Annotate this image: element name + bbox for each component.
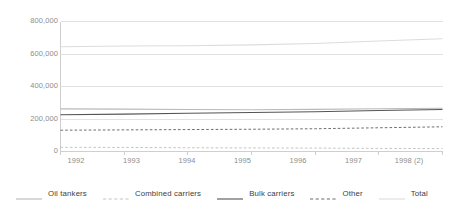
line-chart: 800,000 600,000 400,000 200,000 0 1992 1… [0,0,453,208]
legend-item-other[interactable]: Other [310,189,362,198]
series-lines [61,39,443,149]
plot-area: 800,000 600,000 400,000 200,000 0 1992 1… [0,0,453,172]
x-tick-label-1994: 1994 [161,156,213,165]
legend-label-oil-tankers: Oil tankers [48,189,87,198]
y-tick-label-0: 0 [2,147,58,155]
y-tick-label-600000: 600,000 [2,50,58,58]
x-tick-label-1997: 1997 [328,156,380,165]
chart-canvas [0,0,453,172]
x-tick-label-1996: 1996 [272,156,324,165]
legend-item-total[interactable]: Total [379,189,428,198]
axis-tickmarks [61,152,443,156]
legend-swatch-combined-carriers [103,189,129,197]
legend-item-combined-carriers[interactable]: Combined carriers [103,189,201,198]
legend-item-bulk-carriers[interactable]: Bulk carriers [217,189,294,198]
legend-swatch-total [379,189,405,197]
y-tick-label-800000: 800,000 [2,17,58,25]
y-tick-label-400000: 400,000 [2,82,58,90]
x-tick-label-1995: 1995 [217,156,269,165]
legend-label-combined-carriers: Combined carriers [135,189,201,198]
legend-label-bulk-carriers: Bulk carriers [249,189,294,198]
legend-swatch-bulk-carriers [217,189,243,197]
legend-label-total: Total [411,189,428,198]
legend-swatch-other [310,189,336,197]
x-tick-label-1993: 1993 [106,156,158,165]
legend-swatch-oil-tankers [16,189,42,197]
x-tick-label-1998: 1998 (2) [383,156,435,165]
legend-label-other: Other [342,189,362,198]
legend-item-oil-tankers[interactable]: Oil tankers [16,189,87,198]
chart-legend: Oil tankers Combined carriers Bulk carri… [0,183,453,203]
y-tick-label-200000: 200,000 [2,115,58,123]
x-tick-label-1992: 1992 [50,156,102,165]
